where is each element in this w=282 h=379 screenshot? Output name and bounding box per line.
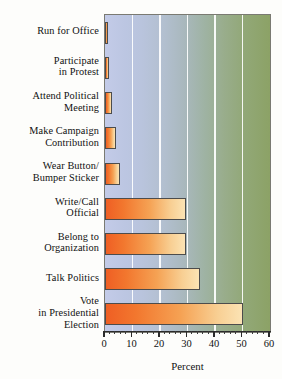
x-tick-minor <box>230 331 231 334</box>
x-tick-label: 30 <box>181 338 192 350</box>
x-tick-major <box>241 331 242 337</box>
x-tick-minor <box>142 331 143 334</box>
gridline-50 <box>242 15 243 332</box>
x-tick-label: 20 <box>154 338 165 350</box>
category-label: Make Campaign Contribution <box>0 125 99 148</box>
x-tick-minor <box>136 331 137 334</box>
x-tick-minor <box>109 331 110 334</box>
bar <box>105 127 116 149</box>
x-tick-minor <box>169 331 170 334</box>
bar <box>105 303 243 325</box>
x-tick-major <box>131 331 132 337</box>
x-tick-label: 10 <box>126 338 137 350</box>
x-tick-minor <box>224 331 225 334</box>
x-tick-label: 60 <box>264 338 275 350</box>
category-label: Vote in Presidential Election <box>0 295 99 330</box>
x-tick-major <box>186 331 187 337</box>
x-tick-label: 40 <box>209 338 220 350</box>
x-tick-minor <box>208 331 209 334</box>
x-tick-minor <box>125 331 126 334</box>
x-tick-label: 50 <box>236 338 247 350</box>
x-tick-label: 0 <box>101 338 106 350</box>
category-label: Belong to Organization <box>0 231 99 254</box>
bar <box>105 233 186 255</box>
x-tick-major <box>103 331 104 337</box>
x-tick-minor <box>147 331 148 334</box>
x-tick-minor <box>202 331 203 334</box>
x-tick-minor <box>252 331 253 334</box>
bar <box>105 22 108 44</box>
x-tick-minor <box>180 331 181 334</box>
x-tick-minor <box>263 331 264 334</box>
category-label: Talk Politics <box>0 272 99 284</box>
x-tick-minor <box>114 331 115 334</box>
bar-chart: Run for OfficeParticipate in ProtestAtte… <box>0 0 282 379</box>
x-tick-minor <box>235 331 236 334</box>
category-label: Attend Political Meeting <box>0 90 99 113</box>
x-tick-major <box>213 331 214 337</box>
x-tick-minor <box>191 331 192 334</box>
x-tick-minor <box>164 331 165 334</box>
gridline-40 <box>214 15 215 332</box>
category-label: Write/Call Official <box>0 196 99 219</box>
x-tick-major <box>158 331 159 337</box>
x-axis-title: Percent <box>104 360 271 372</box>
x-tick-major <box>268 331 269 337</box>
x-tick-minor <box>120 331 121 334</box>
category-label-column: Run for OfficeParticipate in ProtestAtte… <box>0 14 99 331</box>
bar <box>105 92 112 114</box>
plot-area <box>104 14 271 333</box>
category-label: Wear Button/ Bumper Sticker <box>0 160 99 183</box>
x-tick-minor <box>197 331 198 334</box>
x-tick-minor <box>246 331 247 334</box>
bar <box>105 268 200 290</box>
x-tick-minor <box>153 331 154 334</box>
x-axis: 0102030405060 <box>104 331 271 343</box>
x-tick-minor <box>219 331 220 334</box>
category-label: Participate in Protest <box>0 55 99 78</box>
bar <box>105 198 186 220</box>
x-tick-minor <box>175 331 176 334</box>
category-label: Run for Office <box>0 25 99 37</box>
bar <box>105 57 109 79</box>
bar <box>105 163 120 185</box>
x-tick-minor <box>257 331 258 334</box>
